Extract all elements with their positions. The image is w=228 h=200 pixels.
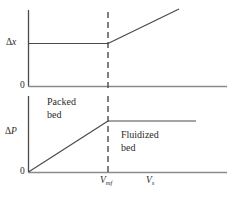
packed-bed-line-1: Packed bbox=[47, 96, 76, 109]
subscript-mf: mf bbox=[106, 179, 113, 186]
variable-x: x bbox=[12, 37, 16, 47]
bottom-plot-rising-segment bbox=[29, 121, 109, 172]
plot-canvas bbox=[0, 0, 227, 200]
fluidized-bed-region-label: Fluidized bed bbox=[121, 129, 159, 154]
top-plot-rising-segment bbox=[108, 9, 179, 44]
x-axis-tick-label-vmf: Vmf bbox=[100, 175, 112, 186]
top-plot-group bbox=[29, 9, 228, 90]
bottom-plot-origin-label: 0 bbox=[20, 166, 25, 177]
fluidization-figure: Δx 0 ΔP 0 Packed bed Fluidized bed Vmf V… bbox=[0, 0, 227, 200]
variable-p: P bbox=[11, 126, 17, 136]
packed-bed-line-2: bed bbox=[47, 109, 76, 122]
variable-v-mf: V bbox=[100, 175, 106, 185]
packed-bed-region-label: Packed bed bbox=[47, 96, 76, 121]
x-axis-tick-label-vs: Vs bbox=[146, 175, 154, 186]
fluidized-bed-line-1: Fluidized bbox=[121, 129, 159, 142]
fluidized-bed-line-2: bed bbox=[121, 142, 159, 155]
bottom-plot-y-axis-label: ΔP bbox=[5, 126, 17, 137]
top-plot-y-axis-label: Δx bbox=[6, 37, 16, 48]
subscript-s: s bbox=[152, 179, 155, 186]
variable-v-s: V bbox=[146, 175, 152, 185]
top-plot-origin-label: 0 bbox=[20, 80, 25, 91]
